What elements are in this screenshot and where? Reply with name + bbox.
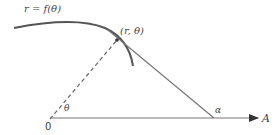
radius-dashed-line <box>50 40 117 119</box>
tangent-line <box>108 30 214 118</box>
alpha-label: α <box>215 105 221 115</box>
polar-curve <box>14 22 133 66</box>
point-label: (r, θ) <box>120 25 144 36</box>
polar-diagram: r = f(θ) (r, θ) 0 θ α A <box>0 0 277 135</box>
origin-label: 0 <box>45 121 51 132</box>
curve-label: r = f(θ) <box>24 3 61 14</box>
theta-label: θ <box>64 103 70 113</box>
curve-point-marker <box>115 38 119 42</box>
axis-label: A <box>261 112 270 125</box>
